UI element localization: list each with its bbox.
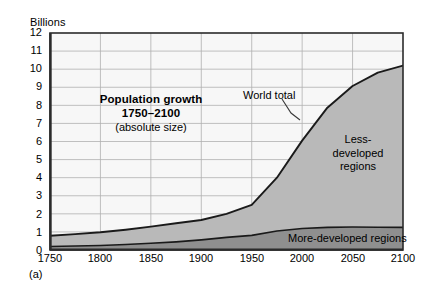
chart-title: Population growth [86, 92, 216, 106]
x-tick-label-2050: 2050 [333, 252, 373, 265]
y-tick-label-12: 12 [26, 26, 42, 39]
annotation-world-total: World total [243, 89, 295, 102]
x-tick-label-1750: 1750 [30, 252, 70, 265]
annotation-more-developed-regions: More-developed regions [288, 232, 407, 245]
y-tick-label-11: 11 [26, 44, 42, 57]
chart-title-block: Population growth 1750–2100 (absolute si… [86, 92, 216, 134]
figure-caption: (a) [29, 268, 42, 281]
x-tick-label-2000: 2000 [282, 252, 322, 265]
chart-subtitle: (absolute size) [86, 120, 216, 134]
y-tick-label-8: 8 [26, 99, 42, 112]
y-tick-label-7: 7 [26, 117, 42, 130]
y-tick-label-1: 1 [26, 226, 42, 239]
x-tick-label-1800: 1800 [80, 252, 120, 265]
y-tick-label-2: 2 [26, 208, 42, 221]
x-tick-label-2100: 2100 [383, 252, 423, 265]
chart-title-years: 1750–2100 [86, 106, 216, 120]
y-tick-label-6: 6 [26, 135, 42, 148]
annotation-less-developed-regions: Less-developed regions [323, 133, 393, 174]
y-tick-label-9: 9 [26, 80, 42, 93]
y-tick-label-10: 10 [26, 62, 42, 75]
x-tick-label-1950: 1950 [232, 252, 272, 265]
y-tick-label-4: 4 [26, 171, 42, 184]
y-tick-label-5: 5 [26, 153, 42, 166]
y-tick-label-3: 3 [26, 189, 42, 202]
figure-container: Billions [0, 0, 430, 291]
x-tick-label-1900: 1900 [181, 252, 221, 265]
x-tick-label-1850: 1850 [131, 252, 171, 265]
